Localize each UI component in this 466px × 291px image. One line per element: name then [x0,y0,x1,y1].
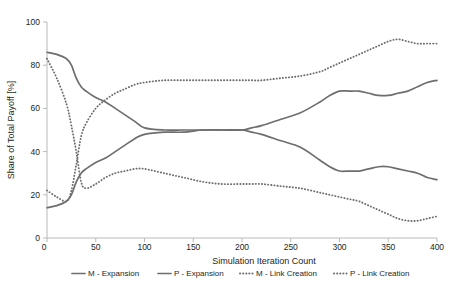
y-axis-title: Share of Total Payoff [%] [6,81,16,180]
legend-label: M - Expansion [88,269,139,278]
y-tick-label: 100 [26,17,40,27]
y-tick-label: 0 [35,233,40,243]
x-axis-ticks: 0 50 100 150 200 250 300 350 400 [42,238,445,252]
series-group [47,39,437,221]
x-tick-label: 300 [332,242,346,252]
series-path-m-expansion [47,52,437,179]
x-tick-label: 50 [91,242,101,252]
legend-label: M - Link Creation [256,269,317,278]
chart-legend: M - ExpansionP - ExpansionM - Link Creat… [72,269,409,278]
series-path-m-link-creation [47,59,437,221]
x-axis-title: Simulation Iteration Count [212,256,316,266]
y-tick-label: 20 [31,190,41,200]
y-axis-ticks: 100 80 60 40 20 0 [26,17,47,243]
x-tick-label: 350 [381,242,395,252]
series-path-p-expansion [47,80,437,207]
legend-label: P - Link Creation [350,269,409,278]
x-tick-label: 0 [42,242,47,252]
chart-container: 100 80 60 40 20 0 0 50 100 150 200 250 3… [0,0,466,291]
y-tick-label: 60 [31,103,41,113]
x-tick-label: 200 [235,242,249,252]
x-tick-label: 400 [430,242,444,252]
line-chart: 100 80 60 40 20 0 0 50 100 150 200 250 3… [0,0,466,291]
y-tick-label: 80 [31,60,41,70]
y-tick-label: 40 [31,147,41,157]
x-tick-label: 150 [186,242,200,252]
x-tick-label: 250 [284,242,298,252]
x-tick-label: 100 [137,242,151,252]
legend-label: P - Expansion [174,269,224,278]
series-path-p-link-creation [47,39,437,201]
